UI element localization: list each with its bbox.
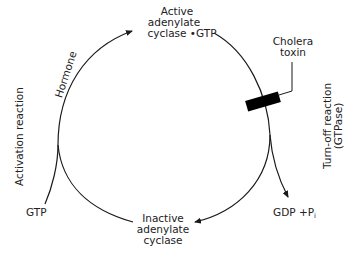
toxin-connector-line: [279, 62, 292, 95]
turnoff-line2: (GTPase): [333, 74, 344, 178]
inactive-line3: cyclase: [130, 235, 196, 246]
inactive-adenylate-cyclase-label: Inactive adenylate cyclase: [130, 213, 196, 246]
toxin-line2: toxin: [270, 47, 316, 58]
gtp-label: GTP: [26, 207, 47, 218]
cholera-toxin-label: Cholera toxin: [270, 36, 316, 58]
gtp-input-line: [45, 145, 58, 204]
pi-subscript: i: [314, 212, 316, 220]
inactive-to-left-arc: [58, 145, 133, 222]
gdp-output-line: [270, 135, 288, 197]
gdp-pi-text: GDP +P: [273, 206, 314, 218]
active-adenylate-cyclase-label: Active adenylate cyclase •GTP: [128, 6, 220, 39]
gdp-pi-label: GDP +Pi: [273, 207, 316, 222]
return-arc: [195, 135, 270, 222]
cholera-toxin-block: [245, 92, 281, 112]
turnoff-arc: [214, 33, 270, 135]
active-line3: cyclase •GTP: [128, 28, 220, 39]
activation-reaction-label: Activation reaction: [14, 82, 25, 192]
turnoff-reaction-label: Turn-off reaction (GTPase): [322, 74, 344, 178]
